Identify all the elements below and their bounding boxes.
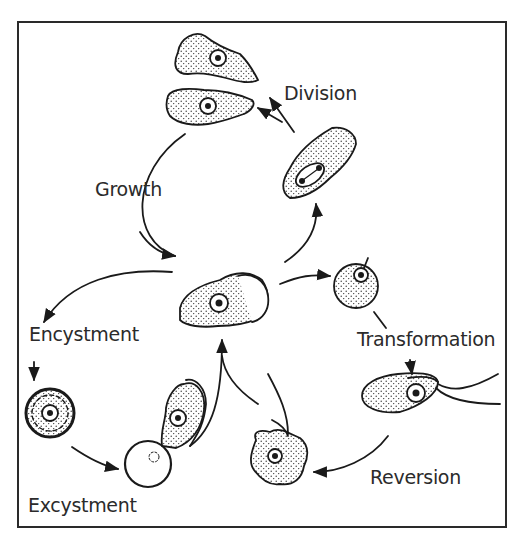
central-trophozoite [180, 273, 268, 327]
label-reversion: Reversion [370, 468, 461, 487]
empty-cyst [125, 441, 171, 487]
daughter-cell-bottom [167, 89, 254, 125]
dividing-cell [283, 128, 356, 198]
label-excystment: Excystment [28, 496, 137, 515]
reverting-amoeba [251, 374, 307, 484]
flagellate [362, 373, 500, 412]
rounded-cell [334, 258, 378, 308]
life-cycle-diagram [0, 0, 519, 536]
label-transformation: Transformation [357, 330, 495, 349]
daughter-cell-top [175, 34, 258, 82]
label-encystment: Encystment [29, 325, 139, 344]
label-growth: Growth [95, 180, 162, 199]
cyst [26, 389, 74, 437]
label-division: Division [284, 84, 357, 103]
